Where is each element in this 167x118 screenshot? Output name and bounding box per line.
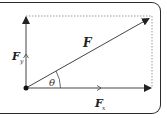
vector-diagram: F F y F x θ	[0, 0, 167, 118]
origin-point	[24, 86, 29, 91]
fy-subscript: y	[19, 57, 24, 65]
theta-arc	[56, 71, 61, 88]
f-vector	[26, 19, 149, 89]
theta-label: θ	[49, 77, 55, 88]
f-label: F	[82, 36, 93, 50]
fx-subscript: x	[102, 104, 106, 111]
